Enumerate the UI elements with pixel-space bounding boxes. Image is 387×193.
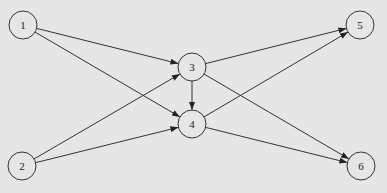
node-4: 4 <box>178 110 206 138</box>
node-label: 2 <box>19 160 25 172</box>
node-label: 1 <box>20 19 26 31</box>
node-label: 5 <box>357 19 363 31</box>
node-label: 3 <box>189 61 195 73</box>
node-1: 1 <box>9 11 37 39</box>
node-2: 2 <box>8 152 36 180</box>
graph-svg: 123456 <box>0 0 387 193</box>
edge-1-to-4 <box>35 32 180 117</box>
node-label: 6 <box>358 160 364 172</box>
edge-2-to-3 <box>34 74 180 159</box>
edge-2-to-4 <box>36 127 179 162</box>
edges-group <box>34 28 349 162</box>
node-label: 4 <box>189 118 195 130</box>
node-3: 3 <box>178 53 206 81</box>
node-5: 5 <box>346 11 374 39</box>
node-6: 6 <box>347 152 375 180</box>
graph-canvas: 123456 <box>0 0 387 193</box>
edge-3-to-6 <box>204 74 349 159</box>
edge-4-to-5 <box>204 32 348 117</box>
